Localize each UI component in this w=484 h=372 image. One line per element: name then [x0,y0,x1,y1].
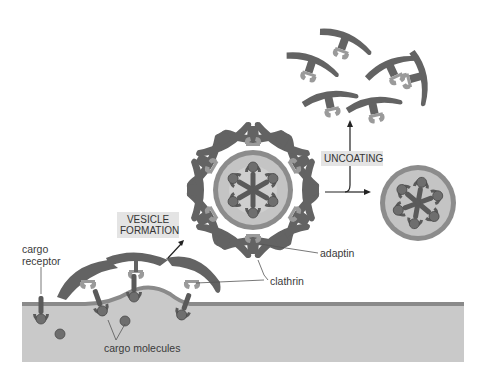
vesicle-formation-line1: VESICLE [120,214,176,225]
uncoating-label: UNCOATING [321,151,383,166]
vesicle-formation-label: VESICLE FORMATION [117,212,179,238]
arrow-vesicle-formation [168,244,181,258]
clathrin-vesicle-diagram: VESICLE FORMATION UNCOATING adaptin clat… [0,0,484,372]
cargo-receptor-label: cargo receptor [22,243,61,267]
diagram-canvas [0,0,484,372]
adaptin-label: adaptin [320,247,354,259]
uncoated-vesicle [380,165,456,241]
clathrin-leader [258,260,268,280]
cell-membrane [22,287,464,362]
vesicle-formation-line2: FORMATION [120,225,176,236]
free-clathrin-adaptin [280,24,434,129]
coated-vesicle [182,117,324,263]
clathrin-label: clathrin [270,275,304,287]
cargo-molecules-label: cargo molecules [104,342,180,354]
